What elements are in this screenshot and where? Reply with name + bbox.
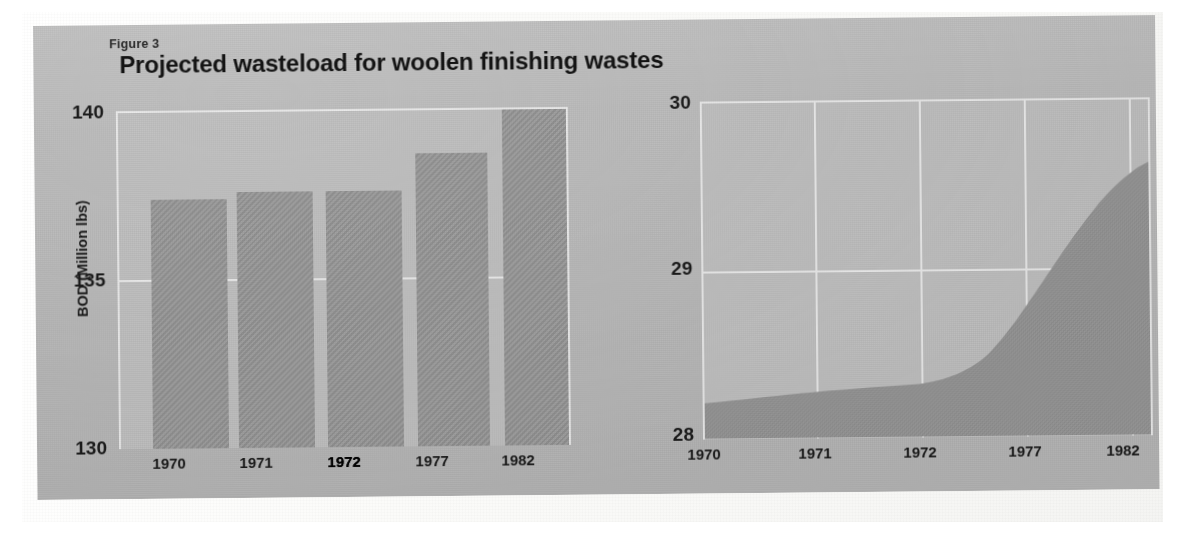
bar-1972 (326, 190, 404, 447)
bar-1977 (415, 153, 490, 447)
left-ytick-135: 135 (53, 269, 105, 291)
left-xtick-1970: 1970 (121, 454, 217, 472)
bod-bar-chart: BOD (Million lbs) 140 135 130 1970 1971 … (33, 21, 598, 500)
volume-area-chart: Volume (Billion gals.) 30 29 28 (593, 15, 1160, 494)
right-ytick-29: 29 (650, 258, 692, 280)
right-xtick-1971: 1971 (767, 444, 863, 462)
left-xtick-1972: 1972 (296, 453, 392, 471)
right-ytick-30: 30 (649, 92, 691, 114)
right-plot-area (700, 97, 1153, 439)
left-plot-inner (118, 109, 569, 449)
right-xtick-1970: 1970 (656, 445, 752, 463)
right-ytick-28: 28 (652, 424, 694, 446)
left-chart-y-axis-label: BOD (Million lbs) (73, 178, 91, 338)
left-ytick-130: 130 (55, 437, 107, 459)
volume-area-series (702, 99, 1151, 438)
right-xtick-1972: 1972 (872, 443, 968, 461)
figure-panel: Figure 3 Projected wasteload for woolen … (33, 15, 1159, 500)
bar-1970 (151, 199, 229, 449)
left-ytick-140: 140 (52, 101, 104, 123)
right-xtick-1977: 1977 (977, 442, 1073, 460)
left-xtick-1977: 1977 (384, 452, 480, 470)
left-xtick-1971: 1971 (208, 453, 304, 471)
left-plot-area (116, 107, 571, 449)
right-xtick-1982: 1982 (1075, 441, 1171, 459)
left-xtick-1982: 1982 (470, 451, 566, 469)
bar-1982 (502, 109, 569, 446)
right-plot-inner (702, 99, 1151, 439)
bar-1971 (237, 191, 315, 448)
